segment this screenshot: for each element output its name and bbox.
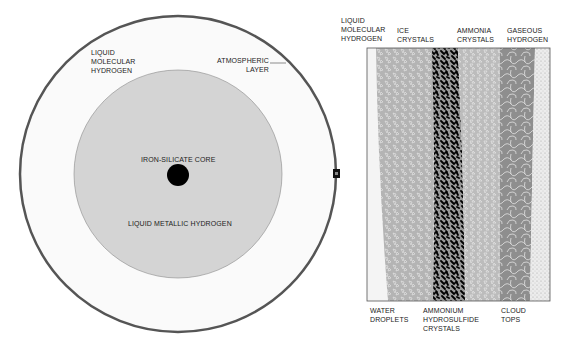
label-top-ice-crystals: ICE CRYSTALS [397, 26, 434, 44]
label-top-liquid-molecular-hydrogen: LIQUID MOLECULAR HYDROGEN [341, 16, 385, 43]
label-top-ammonia-crystals: AMMONIA CRYSTALS [457, 26, 494, 44]
label-bottom-cloud-tops: CLOUD TOPS [501, 306, 526, 324]
label-atmospheric-layer: ATMOSPHERIC LAYER [217, 56, 269, 74]
detail-marker-inner [335, 172, 338, 175]
label-liquid-molecular-hydrogen: LIQUID MOLECULAR HYDROGEN [91, 48, 135, 75]
label-bottom-water-droplets: WATER DROPLETS [370, 306, 409, 324]
label-iron-silicate-core: IRON-SILICATE CORE [141, 155, 215, 164]
label-bottom-ammonium-hydrosulfide: AMMONIUM HYDROSULFIDE CRYSTALS [423, 306, 479, 333]
atmosphere-detail-panel [367, 48, 550, 301]
label-liquid-metallic-hydrogen: LIQUID METALLIC HYDROGEN [128, 219, 232, 228]
iron-silicate-core [167, 164, 189, 186]
planet-cross-section [0, 0, 573, 349]
cloud-tops-band [500, 48, 535, 301]
label-top-gaseous-hydrogen: GASEOUS HYDROGEN [507, 26, 548, 44]
ice-crystals-water-droplets-band [376, 48, 440, 301]
